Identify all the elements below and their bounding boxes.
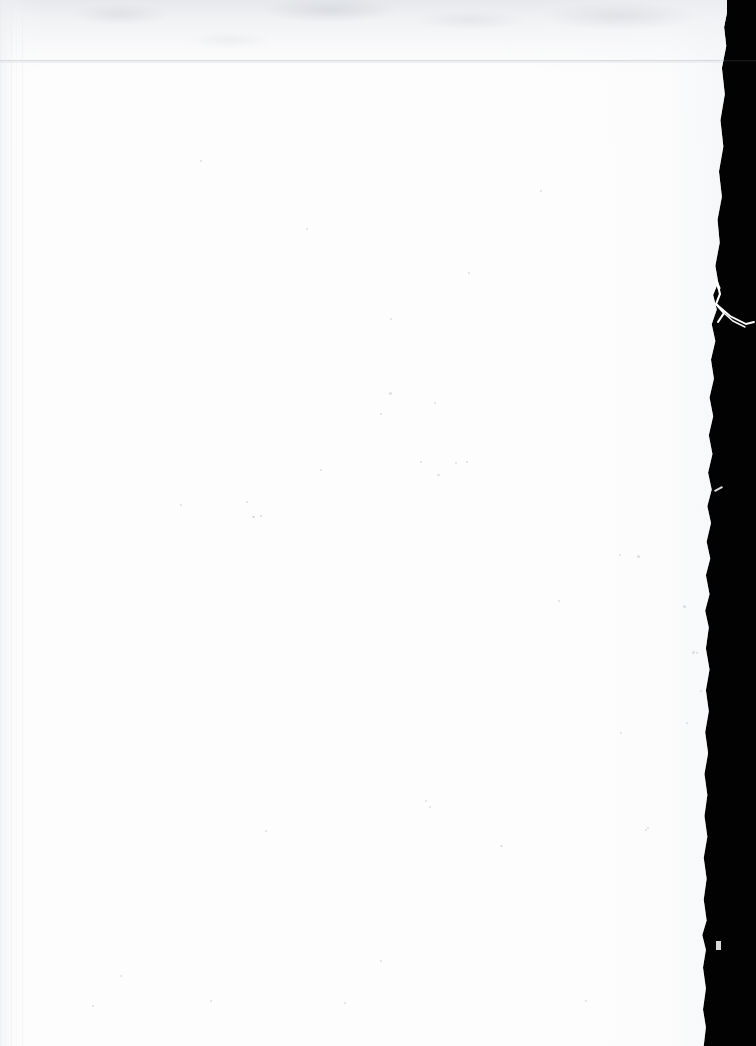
dust-speck [686, 722, 688, 724]
scan-head-seam [0, 60, 727, 61]
dust-speck [683, 605, 686, 608]
dust-speck [692, 651, 695, 654]
left-margin-striping [0, 0, 26, 1046]
scan-head-seam-soft [0, 61, 727, 63]
paper-sheet [0, 0, 727, 1046]
dust-speck [585, 1000, 587, 1002]
page-body-text [70, 90, 650, 970]
top-tonal-band [0, 0, 727, 66]
dust-speck [210, 1000, 212, 1002]
scanned-page [0, 0, 756, 1046]
dust-speck [344, 1002, 346, 1004]
dust-speck [92, 1005, 94, 1007]
dust-speck [120, 975, 122, 977]
dust-speck [696, 652, 698, 654]
dust-speck [700, 690, 702, 692]
